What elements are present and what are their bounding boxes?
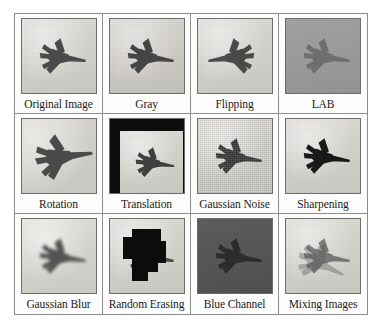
- cell-flipping: Flipping: [191, 14, 279, 114]
- jet-silhouette-icon: [286, 119, 360, 193]
- jet-silhouette-icon: [110, 19, 184, 93]
- jet-silhouette-icon: [120, 131, 184, 193]
- cell-gray: Gray: [103, 14, 191, 114]
- jet-silhouette-icon: [22, 219, 96, 293]
- cell-label: Sharpening: [297, 198, 348, 210]
- cell-label: Gaussian Noise: [199, 198, 269, 210]
- cell-original-image: Original Image: [15, 14, 103, 114]
- thumbnail-lab: [285, 18, 361, 94]
- thumbnail-original-image: [21, 18, 97, 94]
- cell-label: LAB: [312, 98, 335, 110]
- erased-patch: [123, 237, 141, 259]
- cell-label: Flipping: [215, 98, 253, 110]
- cell-gaussian-noise: Gaussian Noise: [191, 114, 279, 214]
- thumbnail-gaussian-noise: [197, 118, 273, 194]
- thumbnail-mixing-images: [285, 218, 361, 294]
- jet-silhouette-icon: [198, 219, 272, 293]
- jet-silhouette-icon: [21, 118, 97, 194]
- cell-random-erasing: Random Erasing: [103, 214, 191, 314]
- cell-lab: LAB: [279, 14, 367, 114]
- thumbnail-blue-channel: [197, 218, 273, 294]
- thumbnail-gaussian-blur: [21, 218, 97, 294]
- jet-silhouette-icon: [286, 219, 360, 293]
- cell-rotation: Rotation: [15, 114, 103, 214]
- cell-label: Gray: [135, 98, 158, 110]
- thumbnail-flipping: [197, 18, 273, 94]
- cell-gaussian-blur: Gaussian Blur: [15, 214, 103, 314]
- cell-label: Blue Channel: [204, 298, 266, 310]
- erased-patch: [144, 262, 159, 272]
- cell-blue-channel: Blue Channel: [191, 214, 279, 314]
- augmentation-figure: Original Image Gray: [14, 13, 368, 315]
- cell-label: Original Image: [24, 98, 93, 110]
- cell-mixing-images: Mixing Images: [279, 214, 367, 314]
- cell-label: Translation: [121, 198, 172, 210]
- cell-label: Mixing Images: [289, 298, 358, 310]
- translated-image-plate: [120, 131, 184, 193]
- thumbnail-sharpening: [285, 118, 361, 194]
- cell-sharpening: Sharpening: [279, 114, 367, 214]
- jet-silhouette-icon: [198, 19, 272, 93]
- cell-label: Random Erasing: [109, 298, 185, 310]
- gaussian-noise-texture: [198, 119, 272, 193]
- jet-silhouette-icon: [286, 19, 360, 93]
- rotated-image-plate: [21, 118, 97, 194]
- thumbnail-random-erasing: [109, 218, 185, 294]
- thumbnail-translation: [109, 118, 185, 194]
- jet-silhouette-icon: [22, 19, 96, 93]
- thumbnail-gray: [109, 18, 185, 94]
- cell-label: Rotation: [39, 198, 78, 210]
- cell-translation: Translation: [103, 114, 191, 214]
- cell-label: Gaussian Blur: [26, 298, 90, 310]
- thumbnail-rotation: [21, 118, 97, 194]
